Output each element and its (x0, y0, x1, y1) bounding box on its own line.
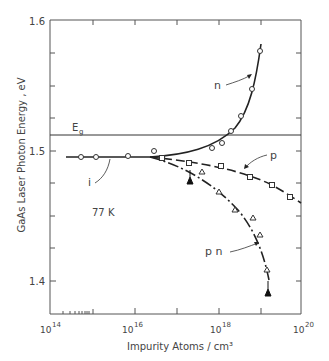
x-tick-label: 10 18 (210, 321, 231, 335)
svg-text:g: g (79, 128, 83, 136)
y-axis-label: GaAs Laser Photon Energy , eV (16, 77, 27, 232)
curve-n (150, 44, 261, 157)
top-axis-ticks (93, 20, 261, 25)
series-n-markers (152, 49, 263, 154)
svg-text:10: 10 (40, 325, 52, 335)
eg-label: E g (72, 122, 83, 136)
x-tick-label: 10 16 (122, 321, 143, 335)
svg-text:16: 16 (134, 321, 143, 329)
x-tick-label: 10 14 (40, 321, 61, 335)
svg-text:20: 20 (305, 321, 314, 329)
leader-p (245, 155, 267, 168)
x-axis-ticks (63, 308, 261, 314)
leader-pn (230, 243, 258, 252)
plot-frame (50, 20, 301, 314)
svg-text:18: 18 (222, 321, 231, 329)
leader-n (226, 75, 251, 85)
x-tick-label: 10 20 (293, 321, 314, 335)
label-n: n (214, 79, 221, 92)
label-p: p (270, 149, 277, 162)
svg-text:10: 10 (122, 325, 134, 335)
y-tick-label: 1.6 (29, 16, 45, 27)
y-axis-ticks (50, 53, 56, 281)
label-i: i (88, 176, 91, 189)
series-p-markers (160, 156, 293, 200)
svg-text:10: 10 (210, 325, 222, 335)
x-axis-label: Impurity Atoms / cm³ (127, 341, 233, 352)
y-tick-label: 1.4 (29, 276, 45, 287)
label-pn: p n (205, 245, 222, 258)
svg-text:10: 10 (293, 325, 305, 335)
svg-text:14: 14 (52, 321, 61, 329)
arrow-marker-icon (187, 170, 271, 296)
right-axis-ticks (296, 53, 301, 281)
temperature-label: 77 K (92, 207, 115, 218)
chart-canvas: 1.6 1.5 1.4 10 14 10 16 10 18 10 20 Impu… (0, 0, 329, 361)
arrowhead-n (247, 74, 252, 79)
leader-i (95, 159, 110, 183)
y-tick-label: 1.5 (29, 146, 45, 157)
svg-text:E: E (72, 122, 78, 133)
